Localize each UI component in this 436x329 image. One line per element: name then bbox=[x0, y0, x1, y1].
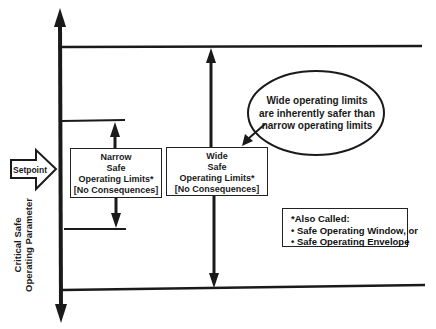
wide-down-arrowhead-icon bbox=[209, 273, 219, 288]
wide-box-line4: [No Consequences] bbox=[167, 184, 267, 195]
note-title: *Also Called: bbox=[291, 213, 407, 225]
also-called-note-box: *Also Called: • Safe Operating Window, o… bbox=[282, 208, 408, 247]
note-item: • Safe Operating Window, or bbox=[291, 225, 407, 237]
narrow-box-line2: Safe bbox=[71, 163, 161, 174]
wide-limits-box: Wide Safe Operating Limits* [No Conseque… bbox=[166, 147, 268, 196]
callout-text: Wide operating limits are inherently saf… bbox=[256, 95, 378, 133]
callout-line2: are inherently safer than bbox=[256, 108, 378, 121]
narrow-box-line1: Narrow bbox=[71, 152, 161, 163]
narrow-box-line4: [No Consequences] bbox=[71, 185, 161, 196]
callout-line1: Wide operating limits bbox=[256, 95, 378, 108]
axis-label-line2: Operating Parameter bbox=[23, 190, 34, 300]
axis-up-arrowhead-icon bbox=[54, 8, 66, 27]
axis-label-line1: Critical Safe bbox=[12, 190, 23, 300]
axis-down-arrowhead-icon bbox=[55, 304, 67, 323]
setpoint-label: Setpoint bbox=[13, 164, 43, 176]
wide-lower-limit-line bbox=[62, 285, 425, 290]
narrow-upper-limit-line bbox=[62, 120, 125, 121]
note-item: • Safe Operating Envelope bbox=[291, 236, 407, 248]
axis-label: Critical Safe Operating Parameter bbox=[12, 190, 34, 300]
narrow-box-line3: Operating Limits* bbox=[71, 174, 161, 185]
wide-box-line1: Wide bbox=[167, 151, 267, 162]
wide-upper-limit-line bbox=[62, 46, 422, 47]
wide-up-arrowhead-icon bbox=[206, 48, 216, 63]
callout-line3: narrow operating limits bbox=[256, 120, 378, 133]
parameter-axis bbox=[54, 8, 67, 323]
narrow-limits-box: Narrow Safe Operating Limits* [No Conseq… bbox=[70, 148, 162, 198]
wide-box-line3: Operating Limits* bbox=[167, 173, 267, 184]
wide-box-line2: Safe bbox=[167, 162, 267, 173]
narrow-up-arrowhead-icon bbox=[110, 122, 120, 137]
narrow-down-arrowhead-icon bbox=[111, 213, 121, 228]
